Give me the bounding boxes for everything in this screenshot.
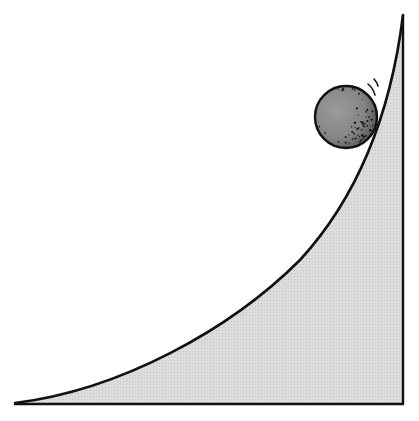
ball-speckle — [372, 125, 373, 126]
ball-speckle — [359, 142, 361, 144]
ball-speckle — [352, 138, 354, 140]
ball-speckle — [369, 129, 370, 130]
ball-speckle — [352, 88, 354, 90]
ball-speckle — [324, 132, 326, 134]
ball-speckle — [362, 138, 364, 140]
ball-speckle — [368, 116, 370, 118]
ball-speckle — [363, 125, 365, 127]
ball-speckle — [361, 129, 363, 131]
ball-speckle — [364, 122, 366, 124]
ball-speckle — [366, 120, 368, 122]
ball-speckle — [361, 99, 362, 100]
ball-speckle — [358, 93, 360, 95]
ball-speckle — [360, 139, 362, 141]
ball-speckle — [360, 121, 361, 122]
ball-speckle — [356, 128, 358, 130]
ball-speckle — [371, 119, 373, 121]
ball-speckle — [354, 122, 356, 124]
ball-speckle — [348, 134, 349, 135]
motion-lines-icon — [368, 79, 378, 95]
ball-speckle — [362, 124, 364, 126]
ball — [315, 86, 377, 148]
ball-speckle — [342, 88, 344, 90]
ball-speckle — [353, 132, 355, 134]
ball-speckle — [351, 131, 353, 133]
ramp-illustration — [0, 0, 419, 421]
ball-speckle — [345, 136, 347, 138]
ball-speckle — [354, 137, 356, 139]
ball-speckle — [345, 142, 347, 144]
ball-speckle — [366, 109, 368, 111]
ball-speckle — [365, 111, 367, 113]
ball-speckle — [366, 116, 367, 117]
ball-speckle — [354, 89, 356, 91]
ball-speckle — [359, 136, 360, 137]
ramp-surface — [15, 15, 403, 403]
ball-speckle — [357, 134, 358, 135]
ball-speckle — [338, 141, 340, 143]
ball-speckle — [337, 89, 338, 90]
ball-speckle — [365, 135, 367, 137]
ball-speckle — [356, 107, 358, 109]
ball-speckle — [366, 125, 368, 127]
ball-speckle — [354, 127, 355, 128]
ball-speckle — [357, 114, 358, 115]
ball-speckle — [351, 126, 353, 128]
ball-speckle — [319, 126, 321, 128]
ball-speckle — [372, 110, 373, 111]
ball-speckle — [349, 143, 350, 144]
ball-speckle — [361, 121, 364, 124]
ball-speckle — [363, 136, 365, 138]
